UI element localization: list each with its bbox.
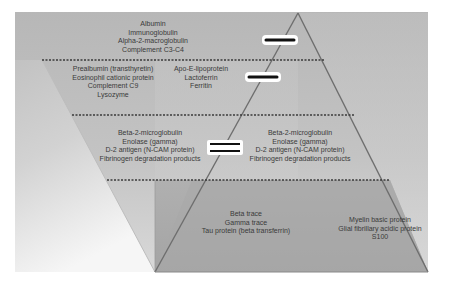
tier-4-right-label: Myelin basic protein Glial fibrillary ac… [338,216,421,242]
label-line: Albumin [118,20,188,29]
label-line: Gamma trace [202,219,290,228]
label-line: Myelin basic protein [338,216,421,225]
label-line: Beta-2-microglobulin [100,129,201,138]
label-line: Tau protein (beta transferrin) [202,227,290,236]
label-line: D-2 antigen (N-CAM protein) [100,146,201,155]
label-line: D-2 antigen (N-CAM protein) [250,146,351,155]
label-line: Immunoglobulin [118,29,188,38]
bar-indicator-icon [262,35,298,45]
label-line: Complement C3-C4 [118,46,188,55]
tier-1-left-label: Albumin Immunoglobulin Alpha-2-macroglob… [118,20,188,54]
tier-2-left-label: Prealbumin (transthyretin) Eosinophil ca… [72,65,153,99]
label-line: Lactoferrin [174,74,228,83]
label-line: Prealbumin (transthyretin) [72,65,153,74]
label-line: Eosinophil cationic protein [72,74,153,83]
label-line: Fibrinogen degradation products [250,155,351,164]
label-line: Beta-2-microglobulin [250,129,351,138]
label-line: Lysozyme [72,91,153,100]
equals-indicator-icon [207,140,243,155]
label-line: Alpha-2-macroglobulin [118,37,188,46]
label-line: Apo-E-lipoprotein [174,65,228,74]
label-line: Fibrinogen degradation products [100,155,201,164]
tier-3-right-label: Beta-2-microglobulin Enolase (gamma) D-2… [250,129,351,163]
protein-pyramid-diagram [0,0,450,286]
tier-4-left-label: Beta trace Gamma trace Tau protein (beta… [202,210,290,236]
bar-indicator-icon [245,72,281,82]
label-line: S100 [338,233,421,242]
tier-2-right-label: Apo-E-lipoprotein Lactoferrin Ferritin [174,65,228,91]
label-line: Enolase (gamma) [100,138,201,147]
label-line: Glial fibrillary acidic protein [338,225,421,234]
label-line: Ferritin [174,82,228,91]
tier-3-left-label: Beta-2-microglobulin Enolase (gamma) D-2… [100,129,201,163]
label-line: Beta trace [202,210,290,219]
label-line: Enolase (gamma) [250,138,351,147]
label-line: Complement C9 [72,82,153,91]
